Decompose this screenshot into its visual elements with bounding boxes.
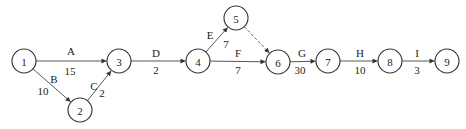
duration-label-F: 7 (235, 64, 241, 76)
event-node-8: 8 (378, 49, 402, 73)
node-label: 2 (77, 105, 83, 117)
node-label: 3 (116, 56, 122, 68)
event-node-4: 4 (186, 49, 210, 73)
event-node-3: 3 (107, 49, 131, 73)
node-label: 7 (325, 56, 331, 68)
node-label: 5 (233, 13, 239, 25)
duration-label-C: 2 (99, 87, 105, 99)
activity-label-E: E (207, 29, 214, 41)
node-label: 1 (21, 56, 27, 68)
activity-label-G: G (298, 47, 306, 59)
duration-label-D: 2 (153, 64, 159, 76)
duration-label-H: 10 (355, 64, 367, 76)
activity-label-D: D (152, 47, 160, 59)
duration-label-A: 15 (65, 65, 77, 77)
duration-label-G: 30 (295, 64, 307, 76)
activity-label-H: H (356, 47, 364, 59)
node-label: 6 (275, 57, 281, 69)
activity-label-I: I (415, 47, 419, 59)
activity-label-A: A (67, 45, 75, 57)
duration-label-E: 7 (223, 38, 229, 50)
activity-label-B: B (50, 73, 57, 85)
node-label: 4 (195, 56, 201, 68)
duration-label-B: 10 (38, 85, 50, 97)
node-label: 8 (387, 56, 393, 68)
event-node-7: 7 (316, 49, 340, 73)
node-label: 9 (444, 56, 450, 68)
activity-label-F: F (235, 47, 241, 59)
event-node-2: 2 (68, 98, 92, 122)
activity-label-C: C (90, 80, 97, 92)
event-node-9: 9 (435, 49, 459, 73)
duration-label-I: 3 (414, 64, 420, 76)
event-node-6: 6 (266, 50, 290, 74)
event-node-1: 1 (12, 49, 36, 73)
network-diagram: 123456789 A15B10C2D2E7F7G30H10I3 (0, 0, 466, 129)
event-node-5: 5 (224, 6, 248, 30)
activity-arrow-G (290, 61, 316, 62)
labels-layer: A15B10C2D2E7F7G30H10I3 (38, 29, 421, 99)
dummy-activity-arrow-5-6 (244, 27, 269, 53)
activity-arrow-F (210, 61, 266, 62)
